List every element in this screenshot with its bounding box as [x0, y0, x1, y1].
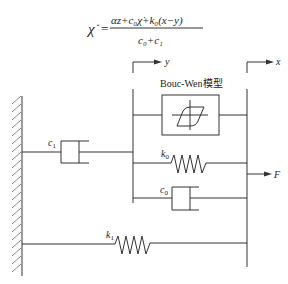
k0-label: k0 [161, 148, 169, 161]
damper-c1: c1 [22, 137, 133, 163]
force-arrow: F [247, 169, 281, 180]
spring-k1: k1 [22, 229, 247, 254]
bouc-wen-model-diagram: χ̇ = αz+c₀χ̇+k₀(x−y) c₀+c₁ [0, 0, 288, 284]
formula-denominator: c₀+c₁ [138, 34, 163, 46]
damper-c0: c0 [133, 184, 247, 210]
fixed-wall [12, 96, 22, 276]
formula-lhs: χ̇ [86, 21, 100, 37]
c1-label: c1 [48, 137, 56, 150]
bouc-wen-element [133, 95, 247, 135]
k1-label: k1 [106, 229, 114, 242]
y-label: y [164, 56, 170, 67]
spring-k0: k0 [133, 148, 247, 173]
x-label: x [275, 56, 281, 67]
c0-label: c0 [160, 184, 168, 197]
y-displacement-arrow: y [133, 56, 170, 73]
formula-equals: = [101, 21, 108, 36]
hysteresis-loop-icon [172, 100, 208, 130]
formula-numerator: αz+c₀χ̇+k₀(x−y) [111, 14, 183, 27]
bouc-wen-label: Bouc-Wen模型 [160, 77, 223, 89]
x-displacement-arrow: x [247, 56, 281, 73]
formula: χ̇ = αz+c₀χ̇+k₀(x−y) c₀+c₁ [86, 14, 203, 46]
force-label: F [273, 169, 281, 180]
